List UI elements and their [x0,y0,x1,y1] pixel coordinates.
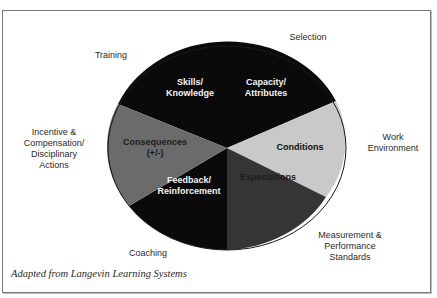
slice-label-expectations: Expectations [240,172,296,183]
slice-label-skills: Skills/ Knowledge [166,77,214,99]
outer-label-work-environment: Work Environment [368,132,419,154]
slice-label-consequences: Consequences (+/-) [123,137,187,159]
outer-label-incentive: Incentive & Compensation/ Disciplinary A… [24,127,85,171]
source-caption: Adapted from Langevin Learning Systems [11,268,187,279]
outer-label-training: Training [95,50,127,61]
outer-label-coaching: Coaching [129,248,167,259]
outer-label-selection: Selection [289,32,326,43]
slice-label-conditions: Conditions [277,142,324,153]
outer-label-measurement: Measurement & Performance Standards [318,230,382,263]
slice-label-feedback: Feedback/ Reinforcement [157,175,220,197]
slice-label-capacity: Capacity/ Attributes [245,77,288,99]
